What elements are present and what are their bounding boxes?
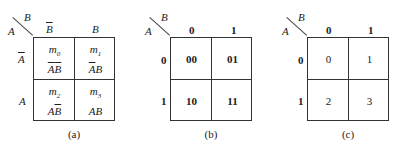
row-header-0: 0 xyxy=(161,54,167,66)
cell-0: 0 xyxy=(308,38,349,80)
row-header-0: 0 xyxy=(298,54,304,66)
cell-00: 00 xyxy=(171,38,212,80)
caption: (a) xyxy=(33,128,115,140)
col-variable-label: B xyxy=(24,11,31,23)
product-term: AB xyxy=(48,62,61,76)
cell-m1: m1 AB xyxy=(75,38,116,80)
cell-m2: m2 AB xyxy=(34,80,75,122)
product-term: AB xyxy=(89,62,102,76)
product-term: AB xyxy=(48,104,61,118)
cell-1: 1 xyxy=(349,38,390,80)
caption: (b) xyxy=(170,128,252,140)
cell-11: 11 xyxy=(212,80,253,122)
caption: (c) xyxy=(307,128,389,140)
minterm-label: m1 xyxy=(90,42,101,61)
row-header-1: 1 xyxy=(298,95,304,107)
minterm-label: m2 xyxy=(49,84,60,103)
col-header-0: B xyxy=(46,23,53,35)
kmap-grid: 00 01 10 11 xyxy=(170,37,252,121)
row-header-1: 1 xyxy=(161,95,167,107)
row-variable-label: A xyxy=(282,25,289,37)
col-header-1: 1 xyxy=(231,24,237,36)
col-variable-label: B xyxy=(298,11,305,23)
product-term: AB xyxy=(89,104,102,118)
col-header-0: 0 xyxy=(326,24,332,36)
col-header-0: 0 xyxy=(189,24,195,36)
minterm-label: m3 xyxy=(90,84,101,103)
col-header-1: B xyxy=(92,23,99,35)
col-variable-label: B xyxy=(161,11,168,23)
cell-m3: m3 AB xyxy=(75,80,116,122)
row-variable-label: A xyxy=(145,25,152,37)
row-header-1: A xyxy=(19,95,26,107)
kmap-a: B A B B A A m0 AB m1 AB m2 AB m3 AB (a) xyxy=(0,0,130,149)
kmap-grid: m0 AB m1 AB m2 AB m3 AB xyxy=(33,37,115,121)
row-variable-label: A xyxy=(8,25,15,37)
minterm-label: m0 xyxy=(49,42,60,61)
row-header-0: A xyxy=(18,53,25,65)
cell-10: 10 xyxy=(171,80,212,122)
kmap-b: B A 0 1 0 1 00 01 10 11 (b) xyxy=(137,0,267,149)
cell-01: 01 xyxy=(212,38,253,80)
cell-2: 2 xyxy=(308,80,349,122)
col-header-1: 1 xyxy=(368,24,374,36)
kmap-c: B A 0 1 0 1 0 1 2 3 (c) xyxy=(274,0,395,149)
kmap-grid: 0 1 2 3 xyxy=(307,37,389,121)
cell-m0: m0 AB xyxy=(34,38,75,80)
cell-3: 3 xyxy=(349,80,390,122)
